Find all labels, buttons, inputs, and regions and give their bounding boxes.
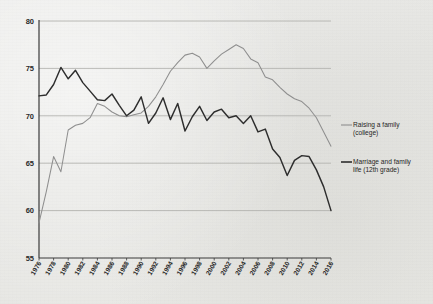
legend-label-0-line2: (college) bbox=[353, 129, 378, 137]
x-tick-label-2014: 2014 bbox=[306, 260, 320, 276]
x-tick-label-1988: 1988 bbox=[117, 260, 131, 276]
y-tick-label-80: 80 bbox=[26, 17, 34, 26]
y-tick-label-70: 70 bbox=[26, 112, 34, 121]
x-tick-label-2002: 2002 bbox=[219, 260, 233, 276]
series-line-0 bbox=[39, 45, 331, 223]
y-tick-label-60: 60 bbox=[26, 206, 34, 215]
chart-svg: 5560657075801976197819801982198419861988… bbox=[0, 0, 433, 304]
x-tick-label-2006: 2006 bbox=[248, 260, 262, 276]
x-tick-label-2008: 2008 bbox=[263, 260, 277, 276]
x-tick-label-2010: 2010 bbox=[277, 260, 291, 276]
x-tick-label-1990: 1990 bbox=[131, 260, 145, 276]
x-tick-label-1984: 1984 bbox=[87, 260, 101, 276]
y-tick-label-75: 75 bbox=[26, 64, 34, 73]
x-tick-label-2012: 2012 bbox=[292, 260, 306, 276]
x-tick-label-1992: 1992 bbox=[146, 260, 160, 276]
legend-label-1-line2: life (12th grade) bbox=[353, 166, 399, 174]
x-tick-label-1978: 1978 bbox=[44, 260, 58, 276]
x-tick-label-2004: 2004 bbox=[233, 260, 247, 276]
line-chart: 5560657075801976197819801982198419861988… bbox=[0, 0, 433, 304]
x-tick-label-1986: 1986 bbox=[102, 260, 116, 276]
x-tick-label-2000: 2000 bbox=[204, 260, 218, 276]
x-tick-label-2016: 2016 bbox=[321, 260, 335, 276]
legend-label-1-line1: Marriage and family bbox=[353, 158, 412, 166]
x-tick-label-1994: 1994 bbox=[160, 260, 174, 276]
y-tick-label-55: 55 bbox=[26, 254, 34, 263]
x-tick-label-1980: 1980 bbox=[58, 260, 72, 276]
x-tick-label-1996: 1996 bbox=[175, 260, 189, 276]
y-tick-label-65: 65 bbox=[26, 159, 34, 168]
x-tick-label-1998: 1998 bbox=[190, 260, 204, 276]
series-line-1 bbox=[39, 67, 331, 210]
legend-label-0-line1: Raising a family bbox=[353, 121, 400, 129]
x-tick-label-1982: 1982 bbox=[73, 260, 87, 276]
